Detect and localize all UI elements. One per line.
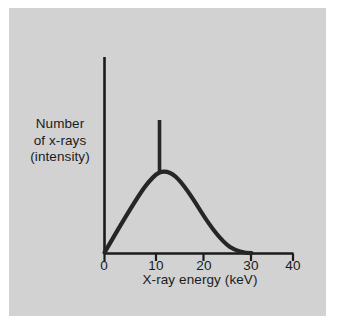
y-axis-title-line-1: Number: [22, 116, 98, 133]
x-tick-label-20: 20: [187, 258, 221, 273]
x-tick-label-40: 40: [276, 258, 310, 273]
x-tick-label-30: 30: [234, 258, 268, 273]
y-axis-title-line-3: (intensity): [22, 149, 98, 166]
x-tick-label-0: 0: [87, 258, 121, 273]
bremsstrahlung-curve: [105, 172, 252, 253]
figure-root: 0 10 20 30 40 X-ray energy (keV) Number …: [0, 0, 338, 328]
y-axis-title: Number of x-rays (intensity): [22, 116, 98, 166]
y-axis-title-line-2: of x-rays: [22, 133, 98, 150]
x-tick-label-10: 10: [139, 258, 173, 273]
x-axis-title: X-ray energy (keV): [104, 272, 296, 287]
